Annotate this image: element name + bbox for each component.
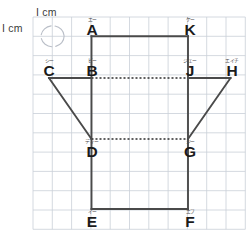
grid-lines	[33, 17, 245, 229]
vertex-ruby-k: ケー	[183, 17, 198, 22]
vertex-letter-k: K	[182, 22, 198, 38]
vertex-letter-h: H	[224, 63, 240, 79]
vertex-label-h: エイチH	[224, 58, 240, 79]
vertex-letter-d: D	[84, 144, 100, 160]
dashed-edges	[92, 78, 189, 139]
edge-H-G	[188, 78, 231, 139]
solid-edges	[49, 36, 231, 209]
vertex-label-k: ケーK	[182, 17, 198, 38]
vertex-label-f: エフF	[182, 209, 198, 230]
vertex-ruby-e: イー	[85, 209, 100, 214]
vertex-label-b: ビーB	[84, 58, 100, 79]
vertex-letter-f: F	[182, 214, 198, 230]
vertex-label-e: イーE	[84, 209, 100, 230]
scale-left-label: I cm	[2, 22, 23, 34]
vertex-letter-j: J	[182, 63, 198, 79]
scale-top-label: I cm	[36, 6, 57, 18]
vertex-label-c: シーC	[41, 58, 57, 79]
vertex-ruby-a: エー	[85, 17, 100, 22]
vertex-label-a: エーA	[84, 17, 100, 38]
vertex-label-g: ジーG	[182, 139, 198, 160]
vertex-letter-e: E	[84, 214, 100, 230]
vertex-letter-b: B	[84, 63, 100, 79]
vertex-ruby-f: エフ	[183, 209, 198, 214]
vertex-label-d: ディーD	[84, 139, 100, 160]
vertex-ruby-h: エイチ	[225, 58, 240, 63]
vertex-letter-a: A	[84, 22, 100, 38]
vertex-ruby-b: ビー	[85, 58, 100, 63]
vertex-label-j: ジェーJ	[182, 58, 198, 79]
vertex-ruby-j: ジェー	[183, 58, 198, 63]
vertex-ruby-d: ディー	[85, 139, 100, 144]
figure-canvas	[0, 0, 252, 240]
vertex-ruby-c: シー	[42, 58, 57, 63]
vertex-letter-c: C	[41, 63, 57, 79]
edge-C-D	[49, 78, 92, 139]
grid-geometry-figure: I cmI cm エーAケーKシーCビーBジェーJエイチHディーDジーGイーEエ…	[0, 0, 252, 240]
vertex-ruby-g: ジー	[183, 139, 198, 144]
vertex-letter-g: G	[182, 144, 198, 160]
